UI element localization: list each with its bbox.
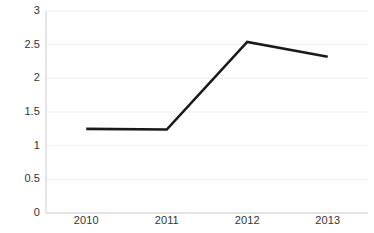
x-axis-tick-label: 2013 bbox=[298, 215, 358, 226]
line-chart: 00.511.522.53 2010201120122013 bbox=[0, 0, 374, 233]
x-axis-tick-label: 2010 bbox=[56, 215, 116, 226]
x-axis-tick-label: 2011 bbox=[137, 215, 197, 226]
x-axis-tick-label: 2012 bbox=[217, 215, 277, 226]
x-axis-tick-labels: 2010201120122013 bbox=[0, 0, 374, 233]
